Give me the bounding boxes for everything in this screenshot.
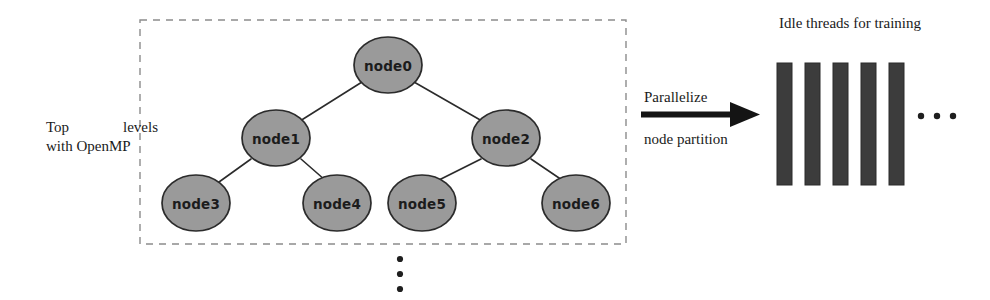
edge-node1-node4 xyxy=(301,159,325,180)
figure-root: Top levels with OpenMP Parallelize node … xyxy=(0,0,990,300)
thread-dot-2 xyxy=(934,113,940,119)
tree-node-label-node4: node4 xyxy=(313,196,361,212)
arrow-label-below: node partition xyxy=(644,130,728,149)
tree-continuation-dots-icon xyxy=(397,256,403,292)
arrow-head xyxy=(730,102,760,127)
openmp-caption-line-2: with OpenMP xyxy=(46,137,166,156)
edge-node1-node3 xyxy=(219,159,251,182)
idle-thread-bars xyxy=(777,63,904,185)
thread-bar-2[interactable] xyxy=(805,63,820,185)
edge-node2-node6 xyxy=(531,159,562,180)
thread-dot-3 xyxy=(950,113,956,119)
tree-node-label-node5: node5 xyxy=(398,196,446,212)
thread-bar-3[interactable] xyxy=(833,63,848,185)
tree-node-label-node0: node0 xyxy=(364,58,412,74)
tree-node-label-node2: node2 xyxy=(482,131,530,147)
tree-dot-1 xyxy=(397,256,403,262)
threads-continuation-dots-icon xyxy=(918,113,956,119)
tree-dot-2 xyxy=(397,271,403,277)
arrow-shaft xyxy=(641,112,737,118)
edge-node0-node1 xyxy=(300,82,362,121)
openmp-caption-word-2: levels xyxy=(123,118,158,137)
thread-dot-1 xyxy=(918,113,924,119)
edge-node2-node5 xyxy=(437,159,481,181)
tree-dot-3 xyxy=(397,286,403,292)
tree-node-label-node1: node1 xyxy=(252,131,300,147)
idle-threads-title: Idle threads for training xyxy=(779,14,921,33)
thread-bar-5[interactable] xyxy=(889,63,904,185)
thread-bar-1[interactable] xyxy=(777,63,792,185)
arrow-label-above: Parallelize xyxy=(644,88,707,107)
tree-node-label-node6: node6 xyxy=(552,196,600,212)
thread-bar-4[interactable] xyxy=(861,63,876,185)
openmp-caption: Top levels with OpenMP xyxy=(46,118,166,156)
openmp-caption-word-1: Top xyxy=(46,118,69,137)
edge-node0-node2 xyxy=(414,82,482,121)
tree-node-label-node3: node3 xyxy=(172,196,220,212)
